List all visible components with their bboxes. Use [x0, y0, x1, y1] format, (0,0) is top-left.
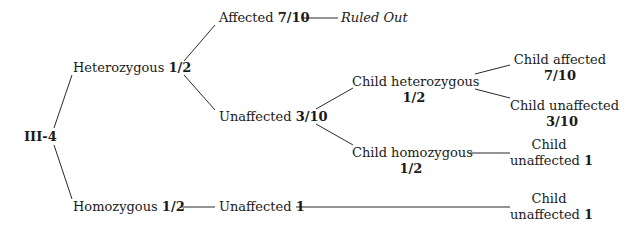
- root-label: III-4: [24, 129, 57, 144]
- node-label: Affected: [219, 10, 274, 25]
- node-child-homozygous: Child homozygous 1/2: [352, 145, 470, 177]
- node-probability: 1/2: [162, 199, 185, 214]
- node-child-affected: Child affected 7/10: [510, 52, 610, 84]
- node-probability: 1/2: [352, 161, 470, 177]
- node-unaffected: Unaffected 3/10: [219, 109, 328, 125]
- node-child-unaffected-het: Child unaffected 3/10: [510, 98, 614, 130]
- root-node: III-4: [24, 129, 57, 145]
- node-label: Unaffected: [219, 109, 292, 124]
- node-affected: Affected 7/10: [219, 10, 310, 26]
- node-probability: 3/10: [510, 114, 614, 130]
- edge-childhet-affected: [475, 65, 510, 74]
- node-label-line1: Child: [510, 137, 588, 153]
- node-child-heterozygous: Child heterozygous 1/2: [352, 74, 476, 106]
- node-label: Child homozygous: [352, 145, 470, 161]
- probability-tree-diagram: III-4 Heterozygous 1/2 Homozygous 1/2 Af…: [0, 0, 635, 231]
- node-child-unaffected-final: Child unaffected 1: [510, 191, 588, 223]
- edge-root-homozygous: [54, 145, 72, 199]
- node-child-unaffected-hom: Child unaffected 1: [510, 137, 588, 169]
- node-label: Child unaffected: [510, 98, 614, 114]
- node-probability: 1/2: [352, 90, 476, 106]
- node-label: Unaffected: [219, 199, 292, 214]
- node-label-line2: unaffected: [510, 153, 580, 168]
- node-label: Child heterozygous: [352, 74, 476, 90]
- node-heterozygous: Heterozygous 1/2: [73, 60, 191, 76]
- node-label: Ruled Out: [341, 10, 408, 25]
- node-probability: 1: [296, 199, 305, 214]
- edge-unaff-childhet: [316, 88, 353, 109]
- node-probability: 7/10: [278, 10, 310, 25]
- node-hom-unaffected: Unaffected 1: [219, 199, 305, 215]
- edge-childhet-unaffected: [475, 89, 510, 98]
- node-probability: 1: [584, 207, 593, 222]
- node-probability: 1: [584, 153, 593, 168]
- node-label-line2: unaffected: [510, 207, 580, 222]
- node-label: Child affected: [510, 52, 610, 68]
- node-probability: 7/10: [510, 68, 610, 84]
- edge-het-unaffected: [184, 75, 215, 110]
- node-ruled-out: Ruled Out: [341, 10, 408, 26]
- edge-unaff-childhom: [316, 124, 353, 145]
- node-label-line1: Child: [510, 191, 588, 207]
- node-label: Heterozygous: [73, 60, 164, 75]
- edge-het-affected: [184, 25, 215, 61]
- node-homozygous: Homozygous 1/2: [73, 199, 185, 215]
- node-probability: 3/10: [296, 109, 328, 124]
- node-probability: 1/2: [169, 60, 192, 75]
- node-label: Homozygous: [73, 199, 158, 214]
- edge-root-heterozygous: [54, 75, 72, 128]
